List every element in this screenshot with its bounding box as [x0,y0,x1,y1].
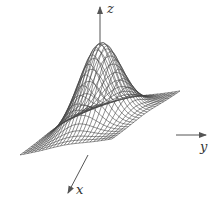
y-axis-label: y [200,140,207,153]
surface-mesh [20,43,180,155]
z-axis-label: z [107,2,114,15]
x-axis-label: x [76,183,83,196]
mesh-line [61,49,153,124]
wireframe-surface [0,0,222,208]
surface-plot-figure: z y x [0,0,222,208]
